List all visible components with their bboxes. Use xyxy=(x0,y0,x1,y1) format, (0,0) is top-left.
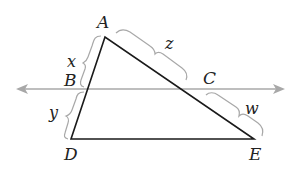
brace-z xyxy=(116,30,187,80)
triangle-ade xyxy=(71,37,254,139)
label-x: x xyxy=(67,52,76,71)
label-a: A xyxy=(95,12,109,32)
brace-y xyxy=(64,92,84,139)
triangle-diagram: A B C D E x y z w xyxy=(0,0,287,171)
diagram-canvas: A B C D E x y z w xyxy=(0,0,287,171)
label-w: w xyxy=(245,99,259,118)
label-c: C xyxy=(203,68,216,88)
label-d: D xyxy=(63,144,78,164)
parallel-line xyxy=(16,84,285,94)
label-b: B xyxy=(63,70,77,90)
label-z: z xyxy=(164,34,174,53)
label-y: y xyxy=(48,103,59,122)
label-e: E xyxy=(248,144,262,164)
